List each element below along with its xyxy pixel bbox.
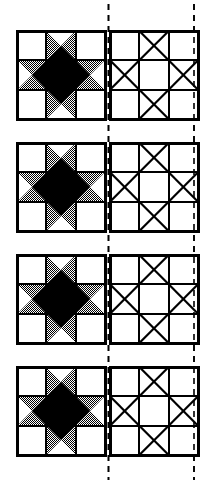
edge-unit-right-2 <box>169 172 198 201</box>
quilt-diagram-svg <box>0 0 212 484</box>
center-cell <box>46 396 75 425</box>
corner-cell-tl <box>110 367 139 396</box>
edge-unit-bottom-3 <box>139 314 168 343</box>
edge-unit-right-1 <box>76 60 105 89</box>
center-cell <box>139 172 168 201</box>
edge-unit-top-1 <box>46 31 75 60</box>
corner-cell-br <box>169 426 198 455</box>
corner-cell-tl <box>110 255 139 284</box>
corner-cell-bl <box>110 426 139 455</box>
edge-unit-bottom-2 <box>139 202 168 231</box>
edge-unit-left-2 <box>17 172 46 201</box>
shaded-star-block-3 <box>17 255 105 343</box>
edge-unit-top-3 <box>139 255 168 284</box>
center-cell <box>139 60 168 89</box>
center-cell <box>139 284 168 313</box>
edge-unit-right-3 <box>76 284 105 313</box>
corner-cell-bl <box>110 202 139 231</box>
template-star-block-2 <box>110 143 198 231</box>
corner-cell-bl <box>17 202 46 231</box>
edge-unit-left-1 <box>110 60 139 89</box>
edge-unit-left-1 <box>17 60 46 89</box>
edge-unit-left-4 <box>17 396 46 425</box>
center-cell <box>46 60 75 89</box>
corner-cell-tr <box>76 31 105 60</box>
edge-unit-bottom-4 <box>46 426 75 455</box>
corner-cell-bl <box>110 314 139 343</box>
edge-unit-right-4 <box>76 396 105 425</box>
edge-unit-left-3 <box>17 284 46 313</box>
edge-unit-left-4 <box>110 396 139 425</box>
shaded-star-block-2 <box>17 143 105 231</box>
template-star-block-1 <box>110 31 198 119</box>
corner-cell-tr <box>169 31 198 60</box>
quilt-diagram-figure: Quilt Block Construction Diagram Four id… <box>0 0 212 484</box>
corner-cell-br <box>76 314 105 343</box>
corner-cell-tl <box>110 31 139 60</box>
corner-cell-tl <box>17 31 46 60</box>
center-cell <box>46 284 75 313</box>
edge-unit-bottom-1 <box>46 90 75 119</box>
edge-unit-bottom-3 <box>46 314 75 343</box>
edge-unit-top-4 <box>46 367 75 396</box>
center-cell <box>46 172 75 201</box>
edge-unit-bottom-2 <box>46 202 75 231</box>
corner-cell-br <box>76 426 105 455</box>
corner-cell-bl <box>17 90 46 119</box>
center-cell <box>139 396 168 425</box>
template-star-block-3 <box>110 255 198 343</box>
corner-cell-tr <box>76 255 105 284</box>
corner-cell-br <box>76 90 105 119</box>
corner-cell-tl <box>17 255 46 284</box>
edge-unit-right-2 <box>76 172 105 201</box>
corner-cell-bl <box>17 314 46 343</box>
template-star-block-4 <box>110 367 198 455</box>
shaded-star-block-4 <box>17 367 105 455</box>
edge-unit-left-2 <box>110 172 139 201</box>
edge-unit-right-3 <box>169 284 198 313</box>
corner-cell-tl <box>17 143 46 172</box>
corner-cell-br <box>76 202 105 231</box>
corner-cell-tr <box>76 367 105 396</box>
edge-unit-top-3 <box>46 255 75 284</box>
corner-cell-bl <box>17 426 46 455</box>
corner-cell-tl <box>110 143 139 172</box>
shaded-star-block-1 <box>17 31 105 119</box>
corner-cell-bl <box>110 90 139 119</box>
edge-unit-top-2 <box>139 143 168 172</box>
corner-cell-tl <box>17 367 46 396</box>
corner-cell-tr <box>76 143 105 172</box>
edge-unit-bottom-4 <box>139 426 168 455</box>
edge-unit-top-2 <box>46 143 75 172</box>
edge-unit-top-4 <box>139 367 168 396</box>
edge-unit-bottom-1 <box>139 90 168 119</box>
edge-unit-top-1 <box>139 31 168 60</box>
edge-unit-left-3 <box>110 284 139 313</box>
